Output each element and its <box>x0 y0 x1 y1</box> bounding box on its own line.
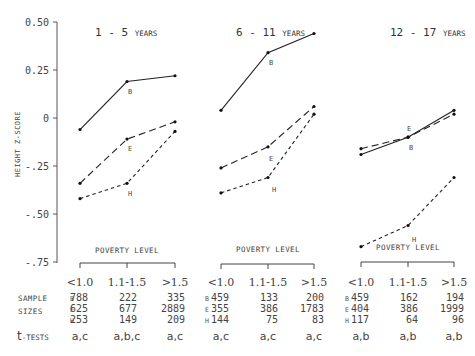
sample-size-cell: 386 <box>260 303 278 314</box>
ttest-cell: a,c <box>260 330 276 343</box>
sample-size-cell: 2889 <box>161 303 185 314</box>
data-point-B <box>173 74 176 77</box>
x-tick-label: <1.0 <box>348 276 375 289</box>
series-label-H: H <box>272 186 276 194</box>
row-key-B: B <box>345 295 349 303</box>
sample-size-cell: 386 <box>400 303 418 314</box>
sample-size-cell: 133 <box>260 292 278 303</box>
panel-title: 12 - 17 YEARS <box>390 26 466 39</box>
panel-title-age: 12 - 17 <box>390 26 443 39</box>
ttest-cell: a,c <box>167 330 183 343</box>
data-point-E <box>219 166 222 169</box>
y-tick-label: 0.25 <box>25 65 49 76</box>
sample-size-cell: 335 <box>167 292 185 303</box>
sample-size-cell: 117 <box>351 314 369 325</box>
ttest-label: t-TESTS <box>17 329 49 343</box>
data-point-E <box>312 105 315 108</box>
ttest-cell: a,c <box>213 330 229 343</box>
data-point-E <box>452 113 455 116</box>
x-tick-label: 1.1-1.5 <box>108 276 147 289</box>
x-tick-label: >1.5 <box>301 276 328 289</box>
sample-size-cell: 200 <box>306 292 324 303</box>
panel-title: 6 - 11 YEARS <box>236 26 305 39</box>
sample-size-cell: 1783 <box>300 303 324 314</box>
row-key-E: E <box>205 306 209 314</box>
row-key-H: H <box>205 317 209 325</box>
data-point-E <box>125 138 128 141</box>
data-point-H <box>219 191 222 194</box>
data-point-B <box>125 80 128 83</box>
x-tick-label: <1.0 <box>67 276 94 289</box>
y-tick-label: -.50 <box>25 209 49 220</box>
sample-size-cell: 1999 <box>440 303 464 314</box>
panel-title-unit: YEARS <box>282 29 305 38</box>
series-label-E: E <box>128 145 132 153</box>
sample-size-cell: 625 <box>70 303 88 314</box>
panel-title-age: 1 - 5 <box>95 26 135 39</box>
ttest-label-small: -TESTS <box>22 333 50 342</box>
y-tick-label: 0 <box>43 113 49 124</box>
data-point-E <box>406 136 409 139</box>
sample-label-line1: SAMPLE <box>18 294 48 303</box>
sample-size-table: SAMPLE SIZES t-TESTS <box>17 294 49 343</box>
data-point-E <box>359 147 362 150</box>
row-key-H: H <box>345 317 349 325</box>
sample-size-cell: 75 <box>266 314 278 325</box>
series-line-H <box>80 131 175 198</box>
data-point-H <box>406 224 409 227</box>
x-tick-label: <1.0 <box>208 276 235 289</box>
data-point-B <box>359 153 362 156</box>
series-label-B: B <box>269 59 273 67</box>
panel-3: 12 - 17 YEARSBEHPOVERTY LEVEL<1.01.1-1.5… <box>345 26 467 343</box>
data-point-E <box>266 145 269 148</box>
x-axis-label: POVERTY LEVEL <box>95 246 159 255</box>
y-tick-label: -.25 <box>25 161 49 172</box>
sample-size-cell: 355 <box>211 303 229 314</box>
sample-size-cell: 222 <box>119 292 137 303</box>
row-key-B: B <box>205 295 209 303</box>
height-zscore-chart: 0.500.250-.25-.50-.75 HEIGHT Z-SCORE 1 -… <box>0 0 475 356</box>
x-axis-label: POVERTY LEVEL <box>376 243 440 252</box>
data-point-B <box>219 109 222 112</box>
sample-size-cell: 788 <box>70 292 88 303</box>
sample-size-cell: 677 <box>119 303 137 314</box>
sample-size-cell: 459 <box>211 292 229 303</box>
series-line-B <box>80 76 175 130</box>
ttest-cell: a,b <box>399 330 416 343</box>
sample-size-cell: 253 <box>70 314 88 325</box>
panel-title-age: 6 - 11 <box>236 26 282 39</box>
sample-size-cell: 144 <box>211 314 229 325</box>
data-point-B <box>452 109 455 112</box>
sample-label-line2: SIZES <box>18 307 43 316</box>
ttest-cell: a,b <box>445 330 462 343</box>
series-label-E: E <box>269 155 273 163</box>
sample-size-cell: 162 <box>400 292 418 303</box>
sample-size-cell: 96 <box>452 314 464 325</box>
panel-title-unit: YEARS <box>443 29 466 38</box>
ttest-cell: a,c <box>306 330 322 343</box>
data-point-E <box>173 120 176 123</box>
panel-2: 6 - 11 YEARSBEHPOVERTY LEVEL<1.01.1-1.5>… <box>205 26 327 343</box>
data-point-H <box>173 130 176 133</box>
series-line-H <box>361 178 454 247</box>
data-point-H <box>359 245 362 248</box>
panel-1: 1 - 5 YEARSBEHPOVERTY LEVEL<1.01.1-1.5>1… <box>67 26 189 343</box>
data-point-H <box>312 113 315 116</box>
x-tick-label: 1.1-1.5 <box>249 276 288 289</box>
series-label-H: H <box>128 190 132 198</box>
x-axis-label: POVERTY LEVEL <box>236 245 300 254</box>
data-point-H <box>452 176 455 179</box>
y-axis-label: HEIGHT Z-SCORE <box>14 111 22 177</box>
y-tick-label: 0.50 <box>25 17 49 28</box>
x-tick-label: >1.5 <box>441 276 468 289</box>
data-point-H <box>125 182 128 185</box>
series-label-B: B <box>128 88 132 96</box>
series-line-H <box>221 114 314 193</box>
ttest-cell: a,c <box>72 330 88 343</box>
data-point-H <box>78 197 81 200</box>
data-point-H <box>266 176 269 179</box>
sample-size-cell: 64 <box>406 314 418 325</box>
data-point-B <box>312 32 315 35</box>
x-tick-label: 1.1-1.5 <box>389 276 428 289</box>
ttest-cell: a,b <box>352 330 369 343</box>
